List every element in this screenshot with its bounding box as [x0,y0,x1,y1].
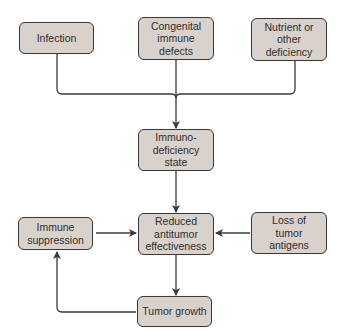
node-loss-of-tumor-antigens: Loss of tumor antigens [251,212,327,254]
edge-nutrient-merge [176,61,295,98]
node-nutrient-deficiency: Nutrient or other deficiency [251,18,327,61]
node-immunodeficiency-state: Immuno- deficiency state [138,129,214,171]
edge-tumor-suppression [57,252,136,312]
flowchart-canvas: Infection Congenital immune defects Nutr… [0,0,348,336]
edge-infection-merge [57,54,176,98]
node-immune-suppression: Immune suppression [18,217,93,250]
node-congenital-immune-defects: Congenital immune defects [138,17,214,60]
node-reduced-antitumor-effectiveness: Reduced antitumor effectiveness [138,213,214,255]
node-infection: Infection [19,22,94,54]
node-tumor-growth: Tumor growth [137,296,212,327]
